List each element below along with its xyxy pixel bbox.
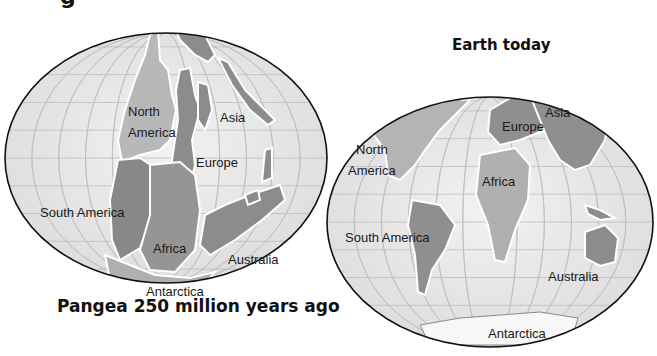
- label-europe: Europe: [502, 119, 544, 134]
- label-africa: Africa: [153, 241, 187, 256]
- label-north-america-1: North: [356, 142, 388, 157]
- label-asia: Asia: [545, 105, 571, 120]
- label-south-america: South America: [345, 230, 430, 245]
- title-fragment: g: [60, 0, 76, 9]
- label-north-america-2: America: [348, 163, 396, 178]
- label-north-america-2: America: [128, 125, 176, 140]
- earth-today-globe: North America Asia Europe Africa South A…: [327, 70, 653, 347]
- label-north-america-1: North: [128, 104, 160, 119]
- label-australia: Australia: [548, 269, 599, 284]
- label-south-america: South America: [40, 205, 125, 220]
- earth-today-caption: Earth today: [452, 36, 551, 54]
- pangea-caption: Pangea 250 million years ago: [57, 296, 340, 316]
- label-europe: Europe: [196, 155, 238, 170]
- label-asia: Asia: [220, 110, 246, 125]
- pangea-globe: North America Asia Europe South America …: [5, 20, 327, 299]
- label-africa: Africa: [482, 174, 516, 189]
- label-australia: Australia: [228, 252, 279, 267]
- label-antarctica: Antarctica: [488, 326, 547, 341]
